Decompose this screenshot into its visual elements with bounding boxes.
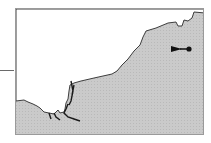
coastline-map — [16, 9, 204, 135]
leader-line — [0, 70, 14, 71]
map-frame — [15, 8, 204, 135]
dot-icon — [186, 46, 191, 51]
